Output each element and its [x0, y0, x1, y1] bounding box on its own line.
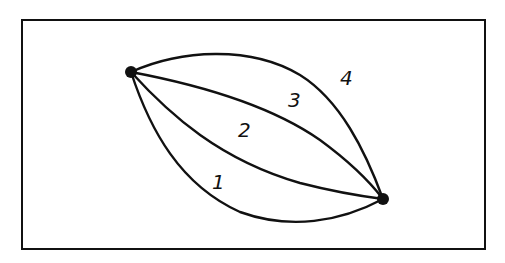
edge-label-4: 4: [340, 68, 353, 88]
graph-drawing: [0, 0, 505, 263]
vertex-A: [125, 66, 137, 78]
edge-label-2: 2: [238, 120, 251, 140]
edge-2: [131, 72, 383, 199]
diagram-frame: [22, 20, 485, 249]
edge-1: [131, 72, 383, 222]
edge-label-1: 1: [212, 172, 225, 192]
diagram-canvas: 1 2 3 4: [0, 0, 505, 263]
edge-label-3: 3: [288, 90, 301, 110]
edge-3: [131, 72, 383, 199]
vertex-B: [377, 193, 389, 205]
